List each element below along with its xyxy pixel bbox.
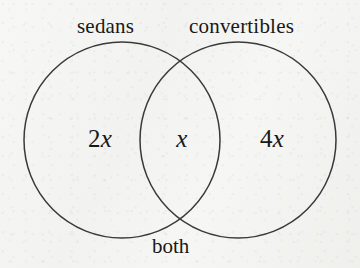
set-circle-convertibles xyxy=(140,42,336,238)
region-variable-right: x xyxy=(273,125,284,152)
region-coefficient-left: 2 xyxy=(88,125,101,152)
region-variable-mid: x xyxy=(176,125,187,152)
region-value-convertibles-only: 4x xyxy=(260,126,284,151)
region-coefficient-right: 4 xyxy=(260,125,273,152)
set-label-sedans: sedans xyxy=(77,16,134,37)
region-variable-left: x xyxy=(101,125,112,152)
venn-diagram-figure: sedans convertibles 2x x 4x both xyxy=(0,0,360,268)
region-value-intersection: x xyxy=(176,126,187,151)
region-value-sedans-only: 2x xyxy=(88,126,112,151)
set-circle-sedans xyxy=(24,42,220,238)
set-label-convertibles: convertibles xyxy=(189,16,294,37)
set-label-both: both xyxy=(152,236,189,257)
